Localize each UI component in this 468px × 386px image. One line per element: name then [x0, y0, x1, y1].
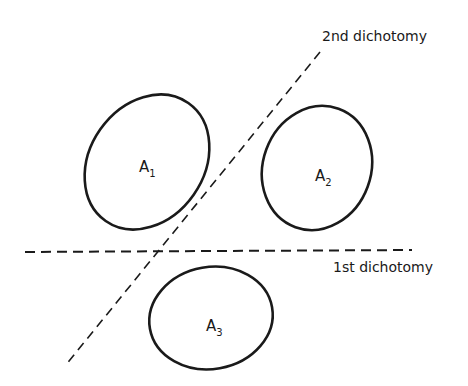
first-dichotomy-line [25, 250, 412, 252]
first-dichotomy-label: 1st dichotomy [333, 259, 433, 275]
dichotomy-diagram: A1 A2 A3 2nd dichotomy 1st dichotomy [0, 0, 468, 386]
set-a2-label: A2 [315, 167, 332, 188]
set-a3-label: A3 [206, 317, 223, 338]
second-dichotomy-label: 2nd dichotomy [322, 28, 427, 44]
set-a1-label: A1 [139, 158, 156, 179]
second-dichotomy-line [65, 52, 320, 366]
